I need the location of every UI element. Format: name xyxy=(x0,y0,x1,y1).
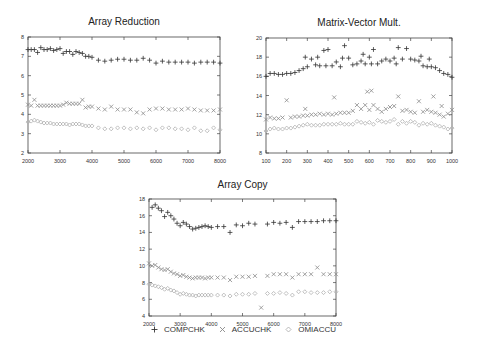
legend-label: OMIACCU xyxy=(298,325,336,334)
series-omiaccu xyxy=(147,282,338,298)
legend-label: COMPCHK xyxy=(164,325,205,334)
legend-label: ACCUCHK xyxy=(232,325,272,334)
legend-item-compchk: COMPCHK xyxy=(150,325,205,334)
y-tick-label: 6 xyxy=(142,296,145,302)
y-tick-label: 14 xyxy=(139,229,145,235)
legend: COMPCHK ACCUCHK OMIACCU xyxy=(150,325,336,334)
y-tick-label: 12 xyxy=(139,246,145,252)
plus-marker-icon xyxy=(150,325,159,334)
y-tick-label: 4 xyxy=(142,313,145,319)
series-compchk xyxy=(150,202,339,234)
legend-item-accuchk: ACCUCHK xyxy=(218,325,272,334)
y-tick-label: 16 xyxy=(139,213,145,219)
series-accuchk xyxy=(147,261,338,309)
legend-item-omiaccu: OMIACCU xyxy=(284,325,336,334)
plot-frame xyxy=(149,199,336,316)
y-tick-label: 18 xyxy=(139,196,145,202)
y-tick-label: 8 xyxy=(142,280,145,286)
chart-array-copy: 2000300040005000600070008000468101214161… xyxy=(0,0,478,335)
cross-marker-icon xyxy=(218,325,227,334)
y-tick-label: 10 xyxy=(139,263,145,269)
diamond-marker-icon xyxy=(284,325,293,334)
